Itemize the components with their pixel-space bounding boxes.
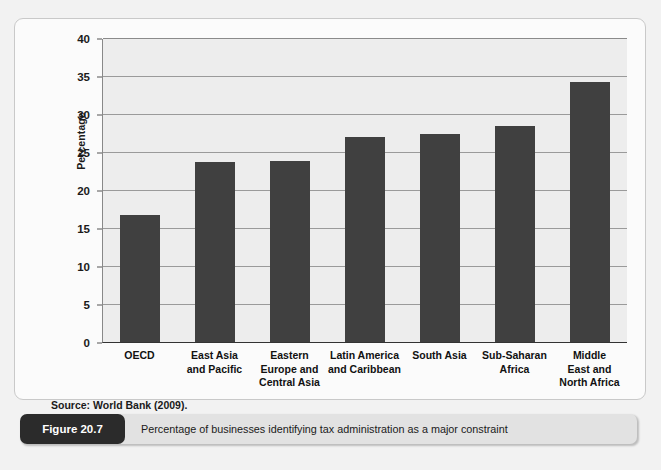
x-axis-label-middle-east-and-north-africa: MiddleEast andNorth Africa — [552, 345, 627, 390]
bar-slot — [402, 39, 477, 342]
y-axis-tick-35: 35 — [77, 71, 90, 83]
y-axis-tick-25: 25 — [77, 147, 90, 159]
x-axis-category-labels: OECDEast Asiaand PacificEasternEurope an… — [102, 345, 627, 390]
x-axis-label-eastern-europe-and-central-asia: EasternEurope andCentral Asia — [252, 345, 327, 390]
figure-card: Percentage 0510152025303540 OECDEast Asi… — [14, 18, 646, 400]
x-axis-label-latin-america-and-caribbean: Latin Americaand Caribbean — [327, 345, 402, 390]
bar-slot — [477, 39, 552, 342]
source-note: Source: World Bank (2009). — [51, 399, 187, 411]
y-axis-tick-labels: 0510152025303540 — [63, 39, 97, 343]
x-axis-label-sub-saharan-africa: Sub-SaharanAfrica — [477, 345, 552, 390]
bar-oecd — [120, 215, 160, 342]
bar-slot — [178, 39, 253, 342]
x-axis-label-oecd: OECD — [102, 345, 177, 390]
x-axis-label-east-asia-and-pacific: East Asiaand Pacific — [177, 345, 252, 390]
bar-slot — [328, 39, 403, 342]
bar-eastern-europe-and-central-asia — [270, 161, 310, 342]
y-axis-tick-0: 0 — [84, 337, 90, 349]
x-axis-label-south-asia: South Asia — [402, 345, 477, 390]
y-axis-tick-10: 10 — [77, 261, 90, 273]
bar-sub-saharan-africa — [495, 126, 535, 342]
y-axis-tick-30: 30 — [77, 109, 90, 121]
bar-slot — [103, 39, 178, 342]
bar-middle-east-and-north-africa — [570, 82, 610, 342]
bar-slot — [552, 39, 627, 342]
bar-east-asia-and-pacific — [195, 162, 235, 342]
plot-area — [102, 39, 627, 343]
bars-layer — [103, 39, 627, 342]
figure-number-badge: Figure 20.7 — [20, 414, 125, 444]
y-axis-tick-5: 5 — [84, 299, 90, 311]
bar-south-asia — [420, 134, 460, 342]
y-axis-tick-40: 40 — [77, 33, 90, 45]
y-axis-tick-15: 15 — [77, 223, 90, 235]
bar-slot — [253, 39, 328, 342]
bar-latin-america-and-caribbean — [345, 137, 385, 342]
figure-caption-text: Percentage of businesses identifying tax… — [125, 423, 508, 435]
chart-plot-wrapper: Percentage 0510152025303540 — [63, 39, 627, 343]
y-axis-tick-20: 20 — [77, 185, 90, 197]
figure-caption-bar: Figure 20.7 Percentage of businesses ide… — [20, 414, 637, 444]
